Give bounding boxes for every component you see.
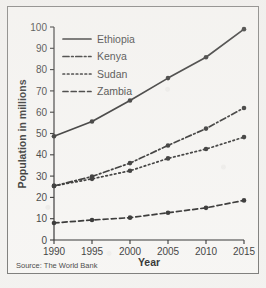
data-point-marker xyxy=(90,177,95,182)
chart-page: 0102030405060708090100 19901995200020052… xyxy=(0,0,266,288)
y-tick-label: 80 xyxy=(36,64,48,75)
data-point-marker xyxy=(242,198,247,203)
series-sudan xyxy=(52,135,247,188)
x-axis-ticks: 199019952000200520102015 xyxy=(43,240,256,257)
series-line xyxy=(54,200,244,223)
y-tick-label: 10 xyxy=(36,213,48,224)
data-point-marker xyxy=(204,206,209,211)
chart-legend: EthiopiaKenyaSudanZambia xyxy=(63,33,135,98)
legend-label-ethiopia: Ethiopia xyxy=(97,33,135,45)
data-point-marker xyxy=(128,215,133,220)
data-point-marker xyxy=(166,156,171,161)
data-point-marker xyxy=(166,76,171,81)
data-point-marker xyxy=(52,184,57,189)
series-zambia xyxy=(52,198,247,225)
y-axis-title: Population in millions xyxy=(16,79,28,188)
y-tick-label: 50 xyxy=(36,128,48,139)
line-chart: 0102030405060708090100 19901995200020052… xyxy=(8,7,258,273)
data-point-marker xyxy=(90,218,95,223)
y-tick-label: 40 xyxy=(36,149,48,160)
data-point-marker xyxy=(204,126,209,131)
y-tick-label: 60 xyxy=(36,107,48,118)
figure-frame: 0102030405060708090100 19901995200020052… xyxy=(7,6,259,274)
data-point-marker xyxy=(52,134,57,139)
y-axis-ticks: 0102030405060708090100 xyxy=(30,22,54,246)
data-point-marker xyxy=(166,143,171,148)
data-point-marker xyxy=(204,55,209,60)
data-point-marker xyxy=(204,147,209,152)
y-tick-label: 70 xyxy=(36,86,48,97)
data-point-marker xyxy=(242,27,247,32)
data-point-marker xyxy=(242,135,247,140)
series-line xyxy=(54,108,244,186)
data-point-marker xyxy=(90,119,95,124)
y-tick-label: 0 xyxy=(41,235,47,246)
series-kenya xyxy=(52,106,247,189)
chart-axes xyxy=(54,27,244,240)
source-note: Source: The World Bank xyxy=(16,261,98,270)
data-point-marker xyxy=(166,210,171,215)
data-point-marker xyxy=(128,168,133,173)
y-tick-label: 90 xyxy=(36,43,48,54)
series-line xyxy=(54,29,244,136)
data-point-marker xyxy=(128,98,133,103)
legend-label-sudan: Sudan xyxy=(97,68,128,80)
x-tick-label: 2015 xyxy=(233,246,256,257)
y-tick-label: 100 xyxy=(30,22,47,33)
data-point-marker xyxy=(242,106,247,111)
x-axis-title: Year xyxy=(138,256,160,268)
y-tick-label: 20 xyxy=(36,192,48,203)
x-tick-label: 1990 xyxy=(43,246,66,257)
x-tick-label: 2005 xyxy=(157,246,180,257)
y-tick-label: 30 xyxy=(36,171,48,182)
legend-label-zambia: Zambia xyxy=(97,85,132,97)
legend-label-kenya: Kenya xyxy=(97,50,127,62)
x-tick-label: 2010 xyxy=(195,246,218,257)
data-point-marker xyxy=(52,221,57,226)
data-point-marker xyxy=(128,161,133,166)
x-tick-label: 1995 xyxy=(81,246,104,257)
